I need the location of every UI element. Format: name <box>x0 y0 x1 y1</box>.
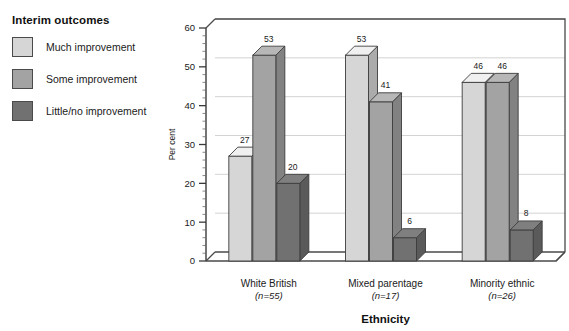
bar-front-face <box>277 183 300 261</box>
legend-label-little-no-improvement: Little/no improvement <box>46 105 146 117</box>
bar-front-face <box>462 82 485 261</box>
legend-item-much-improvement: Much improvement <box>12 37 172 57</box>
y-axis: 0102030405060Per cent <box>167 22 206 266</box>
bars-group <box>229 46 542 261</box>
chart-canvas: 0102030405060Per cent 2753205341646468 W… <box>160 6 569 331</box>
bar-chart: 0102030405060Per cent 2753205341646468 W… <box>160 6 569 331</box>
legend-label-some-improvement: Some improvement <box>46 73 137 85</box>
x-category-label: Minority ethnic <box>470 278 534 289</box>
bar-value-label: 6 <box>407 216 412 226</box>
y-tick-label: 0 <box>190 255 195 266</box>
bar-value-label: 20 <box>288 162 298 172</box>
bar-value-label: 27 <box>240 135 250 145</box>
y-tick-label: 50 <box>184 61 195 72</box>
y-axis-title: Per cent <box>167 128 177 160</box>
y-tick-label: 40 <box>184 100 195 111</box>
bar-front-face <box>394 238 417 261</box>
bar-value-label: 41 <box>381 80 391 90</box>
y-tick-label: 30 <box>184 139 195 150</box>
legend-item-little-no-improvement: Little/no improvement <box>12 101 172 121</box>
legend-swatch-some-improvement <box>12 69 33 89</box>
legend-label-much-improvement: Much improvement <box>46 41 135 53</box>
legend-swatch-much-improvement <box>12 37 33 57</box>
bar-value-label: 53 <box>357 34 367 44</box>
bar-side-face <box>300 174 309 261</box>
y-tick-label: 20 <box>184 178 195 189</box>
bar-value-label: 46 <box>473 61 483 71</box>
legend-title: Interim outcomes <box>12 14 172 26</box>
bar-front-face <box>253 55 276 261</box>
legend-swatch-little-no-improvement <box>12 101 33 121</box>
bar-front-face <box>510 230 533 261</box>
y-tick-label: 10 <box>184 217 195 228</box>
x-category-sublabel: (n=17) <box>372 290 400 301</box>
bar-little-no-improvement-minority-ethnic <box>510 221 542 261</box>
bar-value-label: 46 <box>497 61 507 71</box>
bar-front-face <box>370 102 393 261</box>
x-category-label: Mixed parentage <box>348 278 423 289</box>
x-category-sublabel: (n=55) <box>255 290 283 301</box>
bar-little-no-improvement-white-british <box>277 174 309 261</box>
x-axis-title: Ethnicity <box>361 313 410 325</box>
x-category-sublabel: (n=26) <box>488 290 516 301</box>
bar-value-label: 53 <box>264 34 274 44</box>
bar-little-no-improvement-mixed-parentage <box>394 229 426 261</box>
y-tick-label: 60 <box>184 22 195 33</box>
bar-front-face <box>229 156 252 261</box>
bar-front-face <box>346 55 369 261</box>
legend: Interim outcomes Much improvement Some i… <box>12 14 172 133</box>
x-category-label: White British <box>241 278 297 289</box>
legend-item-some-improvement: Some improvement <box>12 69 172 89</box>
bar-front-face <box>486 82 509 261</box>
bar-value-label: 8 <box>524 208 529 218</box>
x-axis: White British(n=55)Mixed parentage(n=17)… <box>241 278 535 325</box>
